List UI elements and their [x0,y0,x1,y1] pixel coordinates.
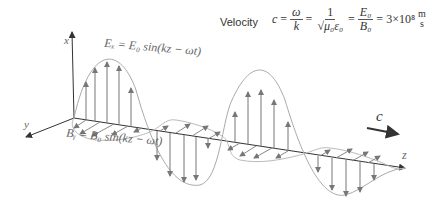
x-axis [72,32,74,118]
omega-over-k: ω k [290,6,302,32]
equals-sign: = [280,12,287,27]
z-axis-label: z [402,148,407,163]
equals-sign: = [306,12,313,27]
propagation-arrow [367,128,398,134]
speed-value: 3×10⁸ [386,12,415,27]
denominator: √μ₀ε₀ [315,20,345,33]
numerator: ω [290,6,302,20]
y-axis-label: y [24,118,29,130]
propagation-label: c [376,108,383,125]
e-over-b: E₀ B₀ [358,6,374,32]
equals-sign: = [348,12,355,27]
denominator: B₀ [358,20,374,33]
x-axis-label: x [64,34,69,46]
velocity-formula: c = ω k = 1 √μ₀ε₀ = E₀ B₀ = 3×10⁸ m s [272,6,426,32]
electric-wave-curve [74,59,405,195]
speed-symbol: c [272,12,277,27]
electric-field-arrows [86,62,374,196]
equals-sign: = [376,12,383,27]
velocity-label: Velocity [220,16,258,28]
numerator: 1 [325,6,335,20]
one-over-sqrt: 1 √μ₀ε₀ [315,6,345,32]
unit-denominator: s [420,19,424,30]
denominator: k [292,20,301,33]
unit-fraction: m s [418,9,426,30]
numerator: E₀ [358,6,374,20]
